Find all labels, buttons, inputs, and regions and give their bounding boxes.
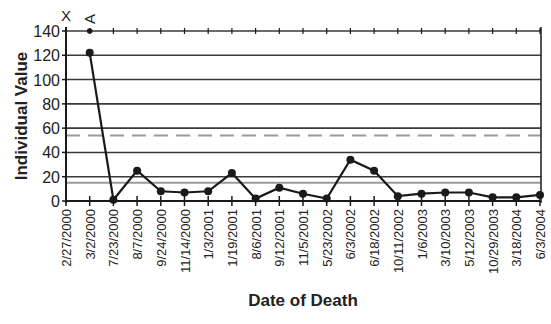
x-tick-label: 8/6/2001 (249, 209, 264, 260)
x-tick-label: 6/3/2004 (533, 209, 548, 260)
y-tick-label: 100 (33, 72, 60, 89)
y-tick-label: 140 (33, 23, 60, 40)
data-point (370, 167, 378, 175)
data-point (252, 195, 260, 203)
data-point (441, 189, 449, 197)
data-point (109, 196, 117, 204)
series-line (90, 53, 540, 200)
flag-marker (87, 28, 93, 34)
data-point (346, 156, 354, 164)
data-point (512, 193, 520, 201)
x-tick-label: 5/12/2003 (462, 209, 477, 267)
annotation-label: X (61, 7, 71, 24)
x-axis-label: Date of Death (248, 291, 358, 310)
y-tick-label: 120 (33, 47, 60, 64)
x-tick-label: 6/3/2002 (343, 209, 358, 260)
x-tick-label: 9/12/2001 (272, 209, 287, 267)
y-tick-label: 20 (42, 169, 60, 186)
data-point (275, 184, 283, 192)
reference-lines (66, 135, 541, 182)
data-point (394, 192, 402, 200)
data-point (465, 189, 473, 197)
data-point (181, 189, 189, 197)
data-point (536, 191, 544, 199)
x-tick-label: 11/5/2001 (296, 209, 311, 266)
data-point (228, 169, 236, 177)
x-tick-label: 6/18/2002 (367, 209, 382, 267)
x-axis-tick-labels: 2/27/20003/2/20007/23/20008/7/20009/24/2… (59, 209, 548, 274)
data-point (157, 187, 165, 195)
x-tick-label: 1/6/2003 (415, 209, 430, 260)
x-tick-label: 8/7/2000 (130, 209, 145, 260)
y-axis-tick-labels: 020406080100120140 (33, 23, 60, 210)
x-tick-label: 10/29/2003 (486, 209, 501, 274)
data-point (86, 49, 94, 57)
data-point (489, 193, 497, 201)
x-tick-label: 3/2/2000 (83, 209, 98, 260)
x-tick-label: 5/23/2002 (320, 209, 335, 267)
data-series (86, 49, 544, 204)
x-tick-label: 11/14/2000 (178, 209, 193, 273)
x-tick-label: 7/23/2000 (106, 209, 121, 267)
axes (62, 27, 541, 206)
data-point (133, 167, 141, 175)
data-point (323, 195, 331, 203)
x-tick-label: 1/19/2001 (225, 209, 240, 267)
control-chart: 020406080100120140 2/27/20003/2/20007/23… (0, 0, 551, 324)
data-point (299, 190, 307, 198)
x-tick-label: 9/24/2000 (154, 209, 169, 267)
x-tick-label: 10/11/2002 (391, 209, 406, 273)
y-tick-label: 0 (51, 193, 60, 210)
annotation-label: A (81, 14, 98, 24)
data-point (204, 187, 212, 195)
y-tick-label: 80 (42, 96, 60, 113)
y-axis-label: Individual Value (12, 52, 31, 180)
y-tick-label: 40 (42, 144, 60, 161)
x-tick-label: 1/3/2001 (201, 209, 216, 260)
x-tick-label: 3/10/2003 (438, 209, 453, 267)
x-tick-label: 2/27/2000 (59, 209, 74, 267)
gridlines (66, 31, 541, 201)
data-point (418, 190, 426, 198)
x-tick-label: 3/18/2004 (509, 209, 524, 267)
chart-canvas: 020406080100120140 2/27/20003/2/20007/23… (0, 0, 551, 324)
y-tick-label: 60 (42, 120, 60, 137)
